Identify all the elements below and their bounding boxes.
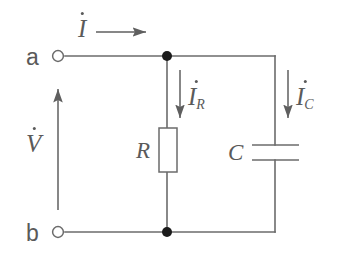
phasor-dot-icon: [81, 12, 84, 15]
capacitor-label: C: [228, 140, 243, 166]
phasor-capacitor-current-base: I: [296, 83, 304, 110]
phasor-capacitor-current: IC: [296, 84, 314, 112]
phasor-source-voltage-base: V: [26, 130, 41, 157]
circuit-diagram-canvas: a b R C I V IR IC: [0, 0, 339, 260]
phasor-resistor-current-subscript: R: [196, 97, 205, 112]
resistor-body: [159, 128, 177, 172]
junction-dot-bottom: [162, 227, 172, 237]
resistor-label: R: [136, 138, 150, 164]
circuit-wiring: [0, 0, 339, 260]
phasor-source-voltage: V: [26, 131, 41, 156]
phasor-dot-icon: [304, 80, 307, 83]
phasor-dot-icon: [32, 127, 35, 130]
phasor-total-current: I: [78, 16, 86, 41]
phasor-total-current-base: I: [78, 15, 86, 42]
terminal-node-b: [53, 227, 64, 238]
terminal-node-a: [53, 51, 64, 62]
phasor-dot-icon: [195, 80, 198, 83]
phasor-capacitor-current-subscript: C: [304, 97, 313, 112]
terminal-label-b: b: [26, 220, 39, 247]
terminal-label-a: a: [26, 44, 39, 71]
phasor-resistor-current: IR: [188, 84, 205, 112]
phasor-resistor-current-base: I: [188, 83, 196, 110]
junction-dot-top: [162, 51, 172, 61]
